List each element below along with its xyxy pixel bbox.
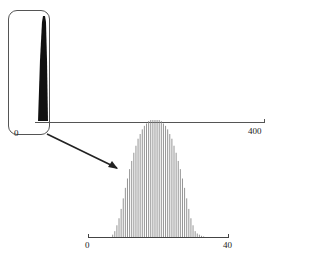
inset-axis-tick	[88, 234, 89, 238]
inset-bar-chart	[88, 110, 229, 237]
inset-x-axis	[88, 237, 229, 238]
inset-axis-tick	[228, 234, 229, 238]
inset-axis-label-min: 0	[85, 240, 90, 250]
inset-axis-label-max: 40	[223, 240, 232, 250]
